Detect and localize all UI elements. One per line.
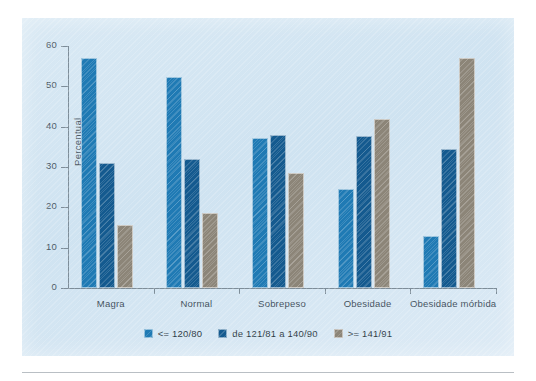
legend-swatch <box>144 329 153 338</box>
plot-area: Percentual 0102030405060 MagraNormalSobr… <box>68 46 496 288</box>
x-tick <box>325 288 326 294</box>
x-axis-label: Magra <box>97 298 125 309</box>
legend-swatch <box>334 329 343 338</box>
bar <box>423 236 439 288</box>
y-tick-label: 40 <box>46 120 57 131</box>
bar <box>166 77 182 288</box>
x-tick <box>154 288 155 294</box>
y-tick: 0 <box>61 288 68 289</box>
x-axis-line <box>68 288 496 289</box>
y-tick-label: 60 <box>46 39 57 50</box>
bar <box>99 163 115 288</box>
legend-label: >= 141/91 <box>348 328 393 339</box>
bar <box>252 138 268 288</box>
bar <box>202 213 218 288</box>
y-tick-label: 50 <box>46 79 57 90</box>
bar <box>270 135 286 288</box>
bar-group <box>81 46 133 288</box>
x-tick <box>239 288 240 294</box>
bar <box>338 189 354 288</box>
x-axis-label: Normal <box>180 298 212 309</box>
figure: Percentual 0102030405060 MagraNormalSobr… <box>0 0 536 381</box>
bar <box>374 119 390 288</box>
bar <box>459 58 475 288</box>
y-tick: 40 <box>61 127 68 128</box>
bar-group <box>166 46 218 288</box>
legend-label: de 121/81 a 140/90 <box>232 328 317 339</box>
chart-panel: Percentual 0102030405060 MagraNormalSobr… <box>22 18 514 356</box>
y-tick-label: 0 <box>52 281 57 292</box>
y-tick: 30 <box>61 167 68 168</box>
bar-group <box>252 46 304 288</box>
x-tick <box>410 288 411 294</box>
bottom-rule <box>22 372 514 373</box>
legend-item: de 121/81 a 140/90 <box>218 328 317 339</box>
y-tick: 20 <box>61 207 68 208</box>
x-axis-label: Obesidade mórbida <box>410 298 496 309</box>
y-axis-line <box>68 46 69 289</box>
legend-item: <= 120/80 <box>144 328 203 339</box>
y-tick-label: 30 <box>46 160 57 171</box>
bar <box>117 225 133 288</box>
bar <box>184 159 200 288</box>
legend-label: <= 120/80 <box>158 328 203 339</box>
y-tick-label: 20 <box>46 200 57 211</box>
bar <box>441 149 457 288</box>
legend-swatch <box>218 329 227 338</box>
y-tick: 10 <box>61 248 68 249</box>
x-tick <box>496 288 497 294</box>
x-axis-label: Sobrepeso <box>258 298 306 309</box>
bar <box>81 58 97 288</box>
y-tick: 50 <box>61 86 68 87</box>
bar-group <box>338 46 390 288</box>
legend: <= 120/80de 121/81 a 140/90>= 141/91 <box>22 328 514 339</box>
y-tick: 60 <box>61 46 68 47</box>
legend-item: >= 141/91 <box>334 328 393 339</box>
bar-group <box>423 46 475 288</box>
bar <box>288 173 304 288</box>
y-tick-label: 10 <box>46 241 57 252</box>
x-axis-label: Obesidade <box>344 298 392 309</box>
bar <box>356 136 372 288</box>
